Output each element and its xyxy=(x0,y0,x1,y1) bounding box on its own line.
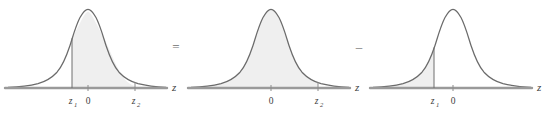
svg-text:z: z xyxy=(314,96,319,106)
svg-text:1: 1 xyxy=(436,101,439,108)
normal-distribution-figure: z z 1 0 z 2 = z xyxy=(0,0,548,119)
svg-text:z: z xyxy=(68,96,73,106)
tick-label-zero-1: 0 xyxy=(86,96,91,106)
shaded-area-2 xyxy=(191,9,318,88)
tick-label-z2-1: z 2 xyxy=(131,96,141,108)
tick-label-z1-1: z 1 xyxy=(68,96,78,108)
axis-label-z-3: z xyxy=(536,81,542,93)
svg-text:2: 2 xyxy=(320,101,324,108)
tick-label-z1-3: z 1 xyxy=(430,96,440,108)
svg-text:2: 2 xyxy=(137,101,141,108)
axis-label-z-1: z xyxy=(171,81,177,93)
svg-text:z: z xyxy=(131,96,136,106)
svg-text:1: 1 xyxy=(74,101,77,108)
chart-panel-1: z z 1 0 z 2 xyxy=(0,0,183,119)
shaded-area-1 xyxy=(72,12,135,89)
tick-label-zero-3: 0 xyxy=(451,96,456,106)
chart-panel-2: z 0 z 2 xyxy=(183,0,366,119)
tick-label-zero-2: 0 xyxy=(269,96,274,106)
bell-curve-3 xyxy=(373,9,531,87)
chart-panel-3: z z 1 0 xyxy=(365,0,548,119)
tick-label-z2-2: z 2 xyxy=(314,96,324,108)
svg-text:z: z xyxy=(430,96,435,106)
axis-label-z-2: z xyxy=(354,81,360,93)
